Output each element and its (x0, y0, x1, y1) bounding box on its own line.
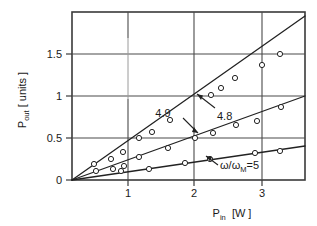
leader-arrow-4.8 (197, 94, 203, 100)
y-axis-label-units: [ units ] (16, 72, 28, 107)
y-axis-label-main: P (16, 121, 28, 128)
chart-svg: 0 0.5 1 1.5 1 2 3 Pout [ units ] Pin [W … (0, 0, 317, 226)
trendline-4.8 (72, 16, 305, 180)
data-point (93, 168, 98, 173)
x-axis-ticks (128, 180, 262, 186)
data-point (233, 122, 238, 127)
series-4.8: 4.8 (72, 16, 305, 180)
x-axis-label: Pin [W ] (213, 207, 252, 222)
data-point (210, 130, 215, 135)
data-point (121, 163, 126, 168)
data-point (165, 145, 170, 150)
x-axis-label-main: P (213, 207, 220, 219)
data-point (136, 154, 141, 159)
svg-text:Pin [W ]: Pin [W ] (213, 207, 252, 222)
data-point (136, 135, 141, 140)
data-point (252, 150, 257, 155)
xtick-label-3: 3 (259, 187, 265, 199)
annotation-4.9: 4.9 (155, 107, 170, 119)
data-point (278, 104, 283, 109)
annotation-omega-ratio-main: ω/ω (220, 159, 241, 171)
data-point (208, 92, 213, 97)
data-point (218, 85, 223, 90)
ytick-label-0.5: 0.5 (47, 132, 62, 144)
svg-text:Pout [ units ]: Pout [ units ] (16, 72, 31, 128)
data-point (182, 160, 187, 165)
data-point (110, 166, 115, 171)
x-axis-label-units: [W ] (232, 207, 252, 219)
chart-figure: 0 0.5 1 1.5 1 2 3 Pout [ units ] Pin [W … (0, 0, 317, 226)
data-point (118, 168, 123, 173)
data-point (232, 75, 237, 80)
data-point (146, 166, 151, 171)
xtick-label-1: 1 (125, 187, 131, 199)
ytick-label-1: 1 (56, 90, 62, 102)
data-point (277, 51, 282, 56)
data-point (91, 161, 96, 166)
y-tick-labels: 0 0.5 1 1.5 (47, 48, 62, 186)
series-omega-ratio-5: ω/ωM=5 (72, 146, 305, 180)
data-point (277, 148, 282, 153)
data-point (259, 62, 264, 67)
data-point (254, 118, 259, 123)
ytick-label-1.5: 1.5 (47, 48, 62, 60)
y-axis-ticks (66, 54, 72, 180)
data-point (108, 156, 113, 161)
annotation-4.8: 4.8 (217, 110, 232, 122)
y-axis-label: Pout [ units ] (16, 72, 31, 128)
data-point (120, 149, 125, 154)
ytick-label-0: 0 (56, 174, 62, 186)
x-tick-labels: 1 2 3 (125, 187, 265, 199)
trendline-omega-ratio-5 (72, 146, 305, 180)
horizontal-gridlines (72, 54, 305, 138)
markers-4.8 (91, 51, 282, 166)
annotation-omega-ratio-tail: =5 (246, 159, 259, 171)
xtick-label-2: 2 (191, 187, 197, 199)
annotation-omega-ratio-5: ω/ωM=5 (220, 159, 259, 174)
data-point (192, 135, 197, 140)
data-point (149, 129, 154, 134)
